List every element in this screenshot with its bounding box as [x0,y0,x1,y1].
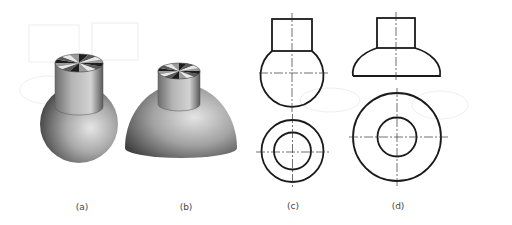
label-d: (d) [392,201,405,211]
label-c: (c) [287,201,299,211]
panel-c-views [256,13,329,188]
panel-b-3d [125,63,237,158]
panel-d-views [349,12,448,186]
top-view [349,88,448,186]
label-b: (b) [180,202,193,212]
top-view [256,114,329,188]
cylinder-top-face [55,54,103,72]
label-a: (a) [76,202,89,212]
cylinder-top-face [158,63,200,79]
front-view [259,13,328,112]
panel-a-3d [40,54,118,163]
projection-figure: (a) (b) (c) (d) [0,0,512,225]
front-view [353,12,440,80]
